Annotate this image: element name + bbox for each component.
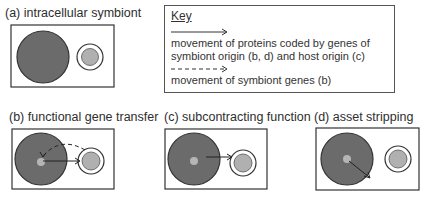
key-legend: Key movement of proteins coded by genes … (164, 5, 395, 93)
panel-c-title: (c) subcontracting function (164, 110, 311, 124)
symbiont-inner-icon (82, 49, 99, 66)
panel-c-diagram (164, 128, 270, 192)
panel-d-title: (d) asset stripping (314, 110, 413, 124)
panel-b-diagram (11, 128, 117, 192)
solid-arrow-icon (171, 28, 231, 36)
host-cell-icon (17, 31, 69, 83)
panel-a-title: (a) intracellular symbiont (5, 6, 141, 20)
panel-d-diagram (315, 127, 421, 193)
symbiont-inner-icon (389, 150, 407, 168)
host-nucleus-icon (190, 157, 198, 165)
key-title: Key (171, 9, 192, 23)
dashed-arrow-desc: movement of symbiont genes (b) (171, 74, 331, 87)
host-nucleus-icon (37, 158, 45, 166)
dashed-arrow-icon (171, 65, 231, 73)
symbiont-inner-icon (234, 154, 252, 172)
panel-a-diagram (10, 24, 116, 90)
solid-arrow-desc-line2: symbiont origin (b, d) and host origin (… (171, 50, 365, 63)
solid-arrow-desc-line1: movement of proteins coded by genes of (171, 37, 370, 50)
symbiont-inner-icon (82, 152, 100, 170)
panel-b-title: (b) functional gene transfer (9, 110, 158, 124)
